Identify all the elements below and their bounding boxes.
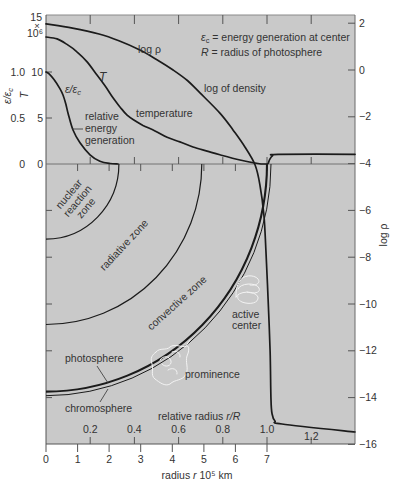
note-energy-center: εc = energy generation at center xyxy=(201,31,350,45)
relative-radius-tick-label: 0.6 xyxy=(171,423,186,435)
relative-energy-label-line2: energy xyxy=(85,122,118,134)
energy-ratio-axis-title: ε/εc xyxy=(1,88,15,104)
log-rho-tick-label: 2 xyxy=(359,17,365,29)
temperature-axis-title: T xyxy=(18,90,30,98)
radius-km-tick-label: 4 xyxy=(169,453,175,465)
radius-km-tick-label: 5 xyxy=(201,453,207,465)
log-rho-tick-label: −16 xyxy=(359,438,377,450)
log-rho-tick-label: −8 xyxy=(359,251,371,263)
solar-structure-figure: ε/εc T 15 × 10⁶ log ρ εc = energy genera… xyxy=(0,0,398,490)
energy-ratio-tick-label: 1.0 xyxy=(10,66,25,78)
radius-km-tick-label: 1 xyxy=(75,453,81,465)
relative-radius-tick-label: 0.4 xyxy=(127,423,142,435)
radius-km-tick-label: 3 xyxy=(138,453,144,465)
log-rho-tick-label: −6 xyxy=(359,204,371,216)
photosphere-label: photosphere xyxy=(65,352,124,364)
relative-radius-tick-label: 0.2 xyxy=(83,423,98,435)
chromosphere-label: chromosphere xyxy=(65,402,132,414)
temperature-tick-label: 10 xyxy=(31,66,43,78)
note-photosphere-radius: R = radius of photosphere xyxy=(201,46,322,58)
log-rho-tick-label: −4 xyxy=(359,157,371,169)
radius-km-axis-title: radius r 10⁵ km xyxy=(162,469,233,481)
temperature-tick-label: 0 xyxy=(37,158,43,170)
log-rho-tick-label: −2 xyxy=(359,110,371,122)
radius-km-tick-label: 7 xyxy=(264,453,270,465)
log-of-density-label: log of density xyxy=(204,82,267,94)
energy-ratio-tick-label: 0.5 xyxy=(10,112,25,124)
log-rho-tick-label: −12 xyxy=(359,344,377,356)
radius-km-tick-label: 6 xyxy=(232,453,238,465)
temperature-multiplier: 10⁶ xyxy=(27,27,43,39)
relative-radius-tick-label: 1.0 xyxy=(260,423,275,435)
log-density-axis-title: log ρ xyxy=(377,224,389,247)
prominence-label: prominence xyxy=(185,368,240,380)
relative-energy-label-line3: generation xyxy=(85,134,135,146)
radius-km-tick-label: 2 xyxy=(106,453,112,465)
radius-km-tick-label: 0 xyxy=(43,453,49,465)
active-center-label-line2: center xyxy=(232,319,262,331)
relative-radius-tick-label: 0.8 xyxy=(215,423,230,435)
log-rho-curve-label: log ρ xyxy=(138,43,161,55)
relative-radius-axis-title: relative radius r/R xyxy=(158,410,241,422)
relative-energy-label-line1: relative xyxy=(85,110,119,122)
log-rho-tick-label: −10 xyxy=(359,298,377,310)
energy-ratio-tick-label: 0 xyxy=(19,158,25,170)
log-rho-tick-label: 0 xyxy=(359,64,365,76)
relative-radius-tick-label: 1.2 xyxy=(304,430,319,442)
temperature-tick-label: 5 xyxy=(37,112,43,124)
log-rho-tick-label: −14 xyxy=(359,391,377,403)
temperature-label: temperature xyxy=(136,107,193,119)
